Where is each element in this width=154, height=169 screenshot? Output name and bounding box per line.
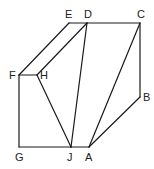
edge-hj xyxy=(37,75,71,147)
vertex-label-a: A xyxy=(85,151,93,163)
vertex-label-h: H xyxy=(40,69,48,81)
vertex-label-g: G xyxy=(15,151,24,163)
edge-ba xyxy=(89,97,140,147)
vertex-label-c: C xyxy=(137,8,145,20)
vertex-label-d: D xyxy=(84,8,92,20)
diagram-canvas: EDCFHBGJA xyxy=(0,0,154,169)
edge-group xyxy=(19,23,140,147)
vertex-label-e: E xyxy=(65,8,72,20)
vertex-label-f: F xyxy=(9,69,16,81)
vertex-label-b: B xyxy=(143,91,150,103)
geometric-diagram: EDCFHBGJA xyxy=(0,0,154,169)
edge-ca xyxy=(89,23,140,147)
edge-dj xyxy=(71,23,87,147)
vertex-label-j: J xyxy=(67,151,73,163)
